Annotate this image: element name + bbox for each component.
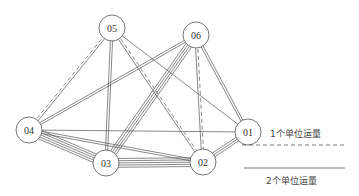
flow-line-2-units [197, 34, 249, 131]
legend-label-2-units: 2个单位运量 [266, 174, 317, 187]
edge-06-01 [195, 34, 249, 132]
edge-05-01 [112, 28, 248, 132]
flow-line-2-units [103, 33, 193, 161]
edge-04-01 [29, 130, 248, 132]
flow-line-2-units [107, 36, 197, 164]
edges-layer [27, 27, 249, 167]
flow-line-2-units [195, 36, 247, 133]
node-label: 02 [198, 157, 208, 168]
flow-line-1-unit [28, 27, 111, 129]
node-label: 06 [191, 30, 201, 41]
edge-04-05 [28, 27, 113, 130]
flow-line-2-units [29, 130, 248, 132]
node-01: 01 [235, 119, 261, 145]
node-label: 01 [243, 127, 253, 138]
edge-06-03 [103, 33, 198, 165]
flow-line-2-units [30, 29, 113, 131]
node-04: 04 [16, 117, 42, 143]
nodes-layer: 010203040506 [16, 15, 261, 176]
node-label: 05 [107, 23, 117, 34]
edge-03-02 [106, 158, 203, 168]
flow-line-2-units [109, 37, 199, 165]
legend-label-1-unit: 1个单位运量 [270, 127, 321, 140]
flow-line-2-units [106, 166, 203, 167]
node-03: 03 [93, 150, 119, 176]
edge-05-03 [105, 28, 113, 163]
flow-line-2-units [112, 28, 248, 132]
node-label: 04 [24, 125, 34, 136]
node-05: 05 [99, 15, 125, 41]
edge-06-02 [195, 35, 204, 162]
node-label: 03 [101, 158, 111, 169]
node-06: 06 [183, 22, 209, 48]
flow-line-2-units [106, 164, 203, 165]
flow-line-2-units [106, 162, 203, 163]
flow-line-2-units [105, 34, 195, 162]
legend-lines [242, 145, 345, 168]
flow-line-2-units [30, 36, 197, 131]
node-02: 02 [190, 149, 216, 175]
network-diagram: 010203040506 [0, 0, 359, 196]
